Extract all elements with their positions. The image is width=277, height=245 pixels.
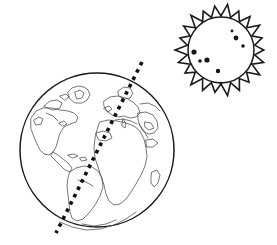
sun-disc	[188, 17, 254, 83]
sunspot	[241, 44, 245, 48]
sunspot	[204, 57, 209, 62]
sunspot	[216, 69, 220, 73]
sun-group	[175, 4, 264, 95]
earth-sun-illustration	[0, 0, 277, 245]
diagram-canvas	[0, 0, 277, 245]
sunspot	[198, 59, 202, 63]
sunspot	[191, 49, 196, 54]
earth-group	[20, 62, 174, 233]
sunspot	[234, 36, 239, 41]
sunspot	[220, 82, 223, 85]
sunspot	[231, 30, 234, 33]
